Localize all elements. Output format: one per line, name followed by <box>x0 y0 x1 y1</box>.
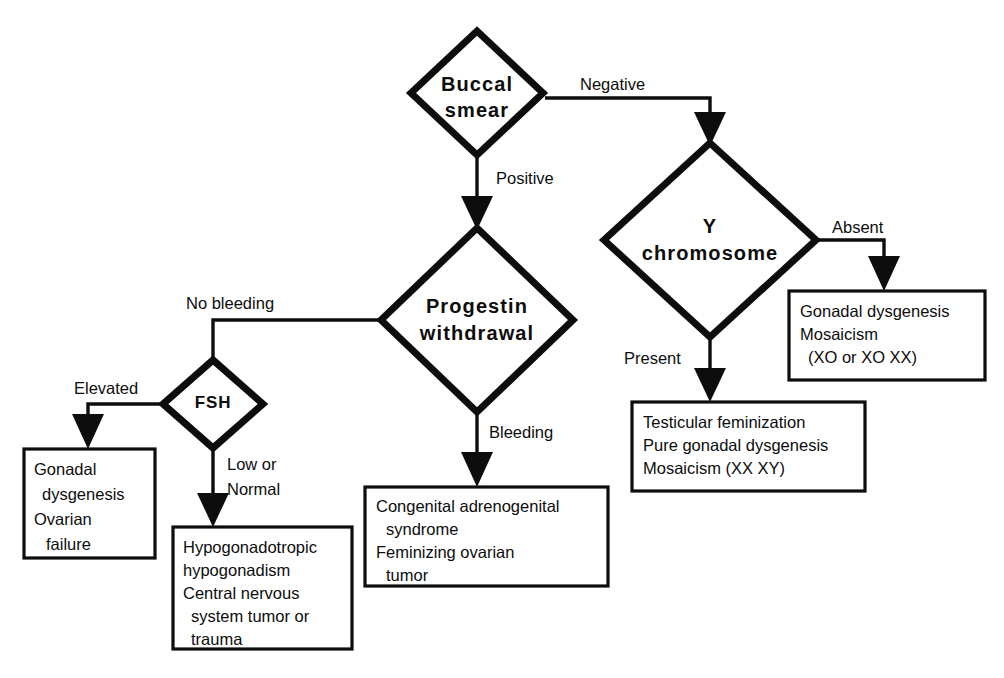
flowchart-svg: Buccal smear Y chromosome Progestin with… <box>0 0 1004 678</box>
progestin-withdrawal-line2: withdrawal <box>419 322 534 344</box>
congenital-adrenogenital-line3: Feminizing ovarian <box>376 543 514 561</box>
edge-fsh-elevated <box>72 404 162 449</box>
testicular-feminization-line2: Pure gonadal dysgenesis <box>643 436 828 454</box>
edge-label-positive: Positive <box>496 169 554 187</box>
edge-label-no-bleeding: No bleeding <box>186 294 274 312</box>
hypogonadotropic-line3: Central nervous <box>183 584 299 602</box>
edge-label-low-or-normal-line2: Normal <box>227 480 280 498</box>
box-congenital-adrenogenital[interactable]: Congenital adrenogenital syndrome Femini… <box>365 487 608 586</box>
node-buccal-smear[interactable]: Buccal smear <box>411 31 543 155</box>
gonadal-mosaicism-line2: Mosaicism <box>800 325 878 343</box>
node-fsh[interactable]: FSH <box>163 360 263 448</box>
edge-buccal-positive <box>461 156 493 230</box>
gonadal-ovarian-line2: dysgenesis <box>42 485 125 503</box>
box-testicular-feminization[interactable]: Testicular feminization Pure gonadal dys… <box>632 402 865 491</box>
edge-label-low-or-normal-line1: Low or <box>227 455 277 473</box>
edge-fsh-low-normal <box>197 450 229 527</box>
congenital-adrenogenital-line2: syndrome <box>386 520 458 538</box>
gonadal-ovarian-line3: Ovarian <box>34 510 92 528</box>
gonadal-mosaicism-line3: (XO or XO XX) <box>808 348 917 366</box>
box-hypogonadotropic[interactable]: Hypogonadotropic hypogonadism Central ne… <box>173 527 352 649</box>
congenital-adrenogenital-line4: tumor <box>386 566 429 584</box>
node-progestin-withdrawal[interactable]: Progestin withdrawal <box>381 228 573 412</box>
node-y-chromosome[interactable]: Y chromosome <box>604 143 816 337</box>
edge-progestin-no-bleeding <box>213 320 380 358</box>
hypogonadotropic-line4: system tumor or <box>191 607 310 625</box>
edge-label-bleeding: Bleeding <box>489 423 553 441</box>
testicular-feminization-line1: Testicular feminization <box>643 413 805 431</box>
gonadal-mosaicism-line1: Gonadal dysgenesis <box>800 302 950 320</box>
y-chromosome-line2: chromosome <box>642 242 779 264</box>
progestin-withdrawal-line1: Progestin <box>426 295 528 317</box>
fsh-label: FSH <box>195 393 232 412</box>
y-chromosome-line1: Y <box>703 215 717 237</box>
box-gonadal-dysgenesis-ovarian-failure[interactable]: Gonadal dysgenesis Ovarian failure <box>24 449 155 558</box>
flowchart-canvas: Buccal smear Y chromosome Progestin with… <box>0 0 1004 678</box>
gonadal-ovarian-line4: failure <box>46 535 91 553</box>
buccal-smear-line1: Buccal <box>441 73 513 95</box>
edge-y-absent <box>818 240 900 291</box>
congenital-adrenogenital-line1: Congenital adrenogenital <box>376 497 559 515</box>
hypogonadotropic-line1: Hypogonadotropic <box>183 538 317 556</box>
edge-label-negative: Negative <box>580 75 645 93</box>
edge-buccal-negative <box>545 98 726 146</box>
edge-label-elevated: Elevated <box>74 379 138 397</box>
hypogonadotropic-line2: hypogonadism <box>183 561 290 579</box>
hypogonadotropic-line5: trauma <box>191 630 243 648</box>
edge-label-absent: Absent <box>832 218 884 236</box>
buccal-smear-line2: smear <box>445 99 509 121</box>
edge-y-present <box>694 338 726 402</box>
edge-label-present: Present <box>624 349 681 367</box>
testicular-feminization-line3: Mosaicism (XX XY) <box>643 459 785 477</box>
gonadal-ovarian-line1: Gonadal <box>34 460 96 478</box>
box-gonadal-dysgenesis-mosaicism[interactable]: Gonadal dysgenesis Mosaicism (XO or XO X… <box>789 291 985 380</box>
